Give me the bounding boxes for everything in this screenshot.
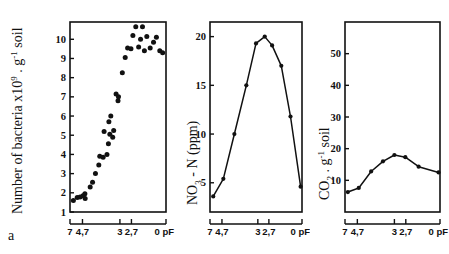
data-marker bbox=[288, 114, 292, 118]
data-marker bbox=[299, 185, 303, 189]
y-tick-label: 10 bbox=[196, 129, 207, 140]
y-tick-label: 30 bbox=[331, 112, 342, 123]
y-tick-label: 10 bbox=[331, 175, 342, 186]
x-tick-label: 4,7 bbox=[215, 226, 228, 237]
y-tick-label: 6 bbox=[61, 111, 66, 122]
y-tick-label: 8 bbox=[61, 72, 66, 83]
scatter-point bbox=[148, 45, 153, 50]
x-tick-label: 3 bbox=[117, 226, 122, 237]
co2-y-axis-label: CO2 . g-1 soil bbox=[316, 127, 335, 200]
data-marker bbox=[417, 165, 421, 169]
ylabel-exponent: -1 bbox=[316, 151, 326, 159]
scatter-point bbox=[108, 114, 113, 119]
data-marker bbox=[369, 169, 373, 173]
scatter-point bbox=[142, 48, 147, 53]
y-tick-label: 20 bbox=[331, 143, 342, 154]
scatter-point bbox=[93, 171, 98, 176]
scatter-point bbox=[144, 34, 149, 39]
nitrate-data-line bbox=[213, 37, 300, 197]
ylabel-prefix: Number of bacteria x10 bbox=[10, 81, 25, 214]
data-marker bbox=[221, 177, 225, 181]
panel-letter-a: a bbox=[8, 228, 14, 244]
data-marker bbox=[211, 194, 215, 198]
bacteria-y-axis-label: Number of bacteria x109 . g-1 soil bbox=[9, 27, 25, 214]
nitrate-x-ticks: 74,732,70 pF bbox=[207, 219, 310, 237]
data-marker bbox=[392, 153, 396, 157]
ylabel-mid: . g bbox=[10, 59, 25, 77]
data-marker bbox=[263, 35, 267, 39]
svg-text:Number of bacteria x109 . g-1: Number of bacteria x109 . g-1 soil bbox=[9, 27, 25, 214]
y-tick-label: 5 bbox=[61, 130, 66, 141]
data-marker bbox=[403, 155, 407, 159]
x-tick-label: 0 pF bbox=[428, 226, 448, 237]
x-tick-label: 0 pF bbox=[290, 226, 310, 237]
nitrate-chart-svg: NO3 - N (ppm) 5101520 74,732,70 pF bbox=[178, 0, 310, 254]
y-tick-label: 1 bbox=[61, 207, 66, 218]
y-tick-label: 20 bbox=[196, 31, 207, 42]
bacteria-chart-svg: Number of bacteria x109 . g-1 soil 12345… bbox=[0, 0, 178, 254]
scatter-point bbox=[106, 119, 111, 124]
scatter-point bbox=[133, 24, 138, 29]
x-tick-label: 2,7 bbox=[125, 226, 138, 237]
scatter-point bbox=[90, 180, 95, 185]
x-tick-label: 2,7 bbox=[262, 226, 275, 237]
y-tick-label: 7 bbox=[61, 91, 66, 102]
y-tick-label: 10 bbox=[56, 34, 67, 45]
scatter-point bbox=[120, 70, 125, 75]
figure-container: Number of bacteria x109 . g-1 soil 12345… bbox=[0, 0, 449, 254]
x-tick-label: 2,7 bbox=[399, 226, 412, 237]
x-tick-label: 3 bbox=[255, 226, 260, 237]
data-marker bbox=[436, 170, 440, 174]
svg-text:CO2 . g-1 soil: CO2 . g-1 soil bbox=[316, 127, 335, 200]
scatter-point bbox=[82, 191, 87, 196]
co2-data-line bbox=[348, 155, 439, 192]
scatter-point bbox=[111, 128, 116, 133]
x-tick-label: 0 pF bbox=[154, 226, 174, 237]
scatter-point bbox=[151, 40, 156, 45]
scatter-point bbox=[140, 24, 145, 29]
panel-nitrate: NO3 - N (ppm) 5101520 74,732,70 pF bbox=[178, 0, 310, 254]
y-tick-label: 5 bbox=[201, 177, 206, 188]
scatter-point bbox=[136, 44, 141, 49]
scatter-point bbox=[83, 196, 88, 201]
ylabel-mid: . g bbox=[317, 159, 332, 177]
y-tick-label: 2 bbox=[61, 187, 66, 198]
data-marker bbox=[279, 64, 283, 68]
x-tick-label: 7 bbox=[342, 226, 347, 237]
data-marker bbox=[244, 83, 248, 87]
x-tick-label: 4,7 bbox=[76, 226, 89, 237]
y-tick-label: 4 bbox=[61, 149, 67, 160]
scatter-point bbox=[102, 129, 107, 134]
bacteria-scatter-points bbox=[71, 24, 165, 203]
ylabel-suffix: soil bbox=[10, 27, 25, 51]
co2-data-markers bbox=[346, 153, 441, 194]
y-tick-label: 9 bbox=[61, 53, 66, 64]
scatter-point bbox=[160, 50, 165, 55]
ylabel-prefix: NO bbox=[185, 185, 200, 205]
scatter-point bbox=[123, 55, 128, 60]
co2-chart-svg: CO2 . g-1 soil 1020304050 74,732,70 pF bbox=[310, 0, 449, 254]
data-marker bbox=[232, 132, 236, 136]
scatter-point bbox=[154, 35, 159, 40]
scatter-point bbox=[116, 94, 121, 99]
co2-plot-frame bbox=[345, 22, 440, 212]
scatter-point bbox=[110, 135, 115, 140]
data-marker bbox=[357, 186, 361, 190]
co2-x-ticks: 74,732,70 pF bbox=[342, 219, 448, 237]
scatter-point bbox=[130, 33, 135, 38]
y-tick-label: 50 bbox=[331, 48, 342, 59]
scatter-point bbox=[88, 185, 93, 190]
scatter-point bbox=[96, 162, 101, 167]
y-tick-label: 15 bbox=[196, 80, 207, 91]
scatter-point bbox=[138, 37, 143, 42]
data-marker bbox=[270, 43, 274, 47]
x-tick-label: 7 bbox=[67, 226, 72, 237]
scatter-point bbox=[104, 152, 109, 157]
data-marker bbox=[381, 159, 385, 163]
x-tick-label: 3 bbox=[392, 226, 397, 237]
nitrate-plot-frame bbox=[210, 22, 302, 212]
scatter-point bbox=[128, 46, 133, 51]
x-tick-label: 4,7 bbox=[351, 226, 364, 237]
scatter-point bbox=[106, 141, 111, 146]
data-marker bbox=[254, 41, 258, 45]
